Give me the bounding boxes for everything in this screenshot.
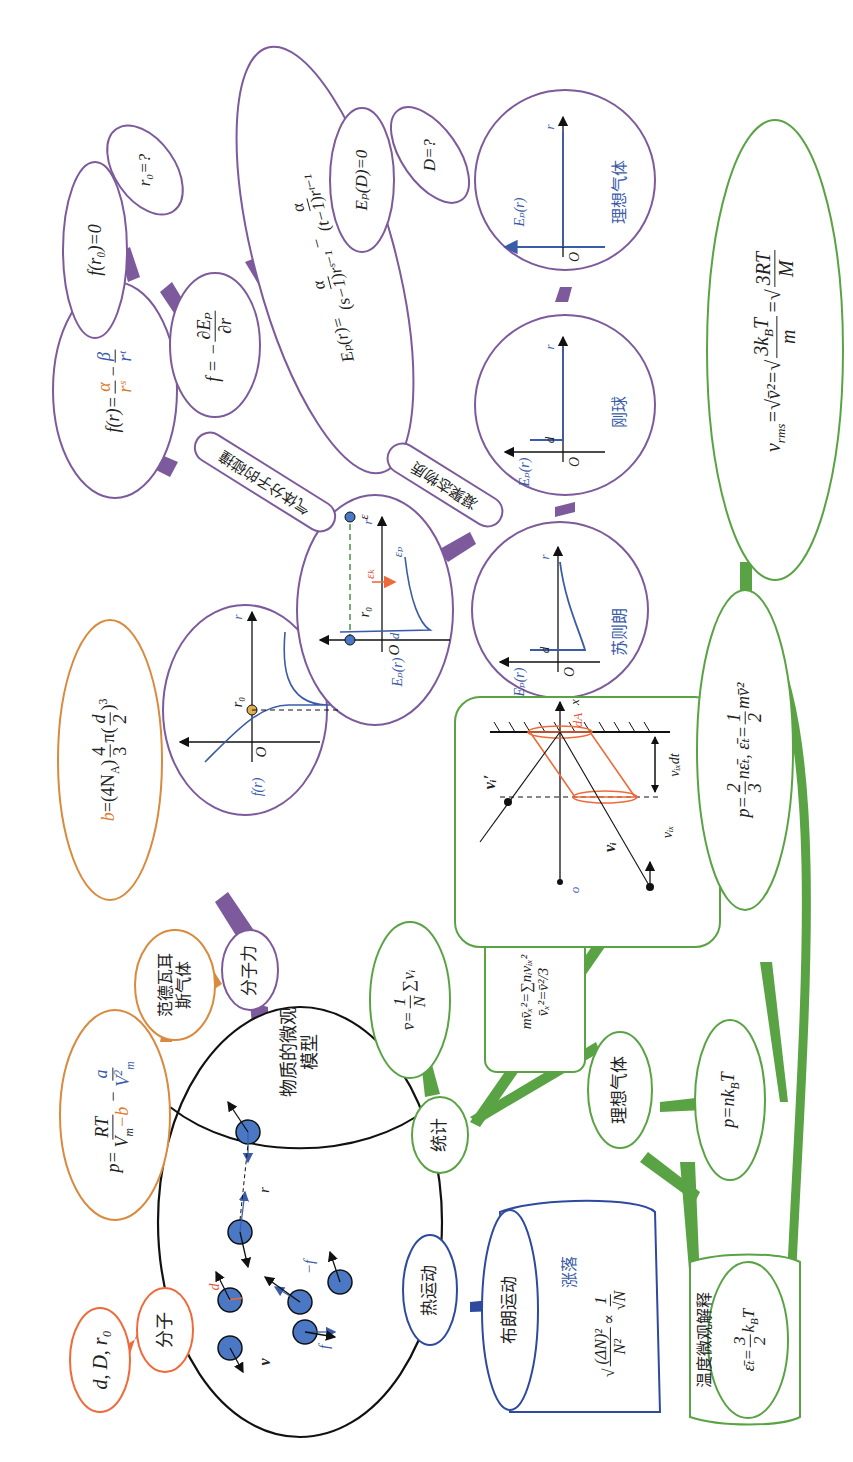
force-zero: f(r₀)=0: [85, 224, 106, 275]
sutherland-origin: O: [562, 667, 578, 677]
force-graph-xlabel: r: [231, 614, 246, 619]
molecule-params-label: d, D, r₀: [89, 1330, 112, 1389]
wall-vi-prime: vᵢ′: [481, 775, 499, 789]
hard-sphere-ylabel: Eₚ(r): [517, 458, 533, 487]
vdw-b-equation: b=(4NA)43π(d2)3: [90, 699, 131, 822]
mind-map-canvas: d, D, r₀ 分子 物质的微观模型 d r v f −f p=RTVm−b−…: [0, 0, 853, 1462]
wall-vi: vᵢ: [601, 842, 619, 852]
molecule-label: 分子: [155, 1312, 176, 1348]
force-formula: f(r)=αrˢ−βrᵗ: [95, 347, 136, 432]
ideal-gas-ylabel: Eₚ(r): [512, 198, 528, 227]
neg-force-label: −f: [301, 1260, 318, 1274]
potential-graph-r0: r₀: [357, 607, 373, 617]
fluctuation-label: 涨落: [561, 1256, 579, 1288]
potential-graph-xlabel: r: [361, 519, 376, 524]
model-sutherland-label: 苏则朗: [611, 608, 629, 656]
sutherland-d: d: [538, 647, 553, 654]
vrms-formula: vrms=√v̄²=√3kBTm=√3RTM: [750, 248, 799, 452]
mean-speed-formula: v̄=1N∑vᵢ: [391, 970, 429, 1031]
ideal-gas-origin: O: [567, 252, 583, 262]
pnkt-formula: p=nkBT: [718, 1072, 742, 1127]
potential-graph-eps: ε: [357, 514, 372, 519]
D-question: D=?: [420, 139, 440, 171]
hard-sphere-origin: O: [567, 457, 583, 467]
potential-graph-origin: O: [386, 645, 403, 656]
wall-vixdt: vᵢₓdt: [667, 753, 683, 776]
temperature-formula: ε̄ₜ=32kBT: [731, 1309, 769, 1372]
wall-vix: vᵢₓ: [660, 826, 676, 838]
mean-square-formula: mv̄ₓ²=∑nᵢvᵢₓ² v̄ₓ²=v̄²/3: [518, 955, 553, 1030]
pressure-formula: p=23nε̄ₜ, ε̄ₜ=12mv̄²: [725, 683, 766, 818]
sutherland-xlabel: r: [538, 554, 553, 559]
hard-sphere-d: d: [543, 437, 558, 444]
diameter-label: d: [207, 1284, 223, 1291]
center-title: 物质的微观模型: [279, 1007, 320, 1097]
molecular-force-label: 分子力: [240, 945, 260, 996]
temperature-title: 温度微观解释: [696, 1292, 714, 1388]
statistics-label: 统计: [430, 1118, 450, 1152]
distance-label: r: [257, 1187, 273, 1192]
thermal-motion-label: 热运动: [420, 1265, 440, 1316]
sutherland-ylabel: Eₚ(r): [512, 668, 528, 697]
force-label: f: [316, 1345, 333, 1349]
vdw-gas-label: 范德瓦耳斯气体: [157, 953, 194, 1017]
hard-sphere-xlabel: r: [543, 344, 558, 349]
model-ideal-gas-label: 理想气体: [611, 160, 629, 224]
wall-o: o: [568, 887, 583, 894]
potential-graph-d: d: [388, 633, 403, 640]
force-graph-r0: r₀: [230, 697, 246, 707]
fluctuation-formula: √(ΔN)²N²∝1√N: [592, 1287, 628, 1378]
potential-D: Eₚ(D)=0: [352, 150, 372, 211]
velocity-label: v: [256, 1358, 274, 1365]
force-derivative: f = −∂Eₚ∂r: [195, 308, 236, 381]
ideal-gas-xlabel: r: [543, 124, 558, 129]
vdw-equation: p=RTVm−b−aV2m: [92, 1057, 137, 1172]
r0-question: r₀=?: [135, 154, 155, 187]
wall-x: x: [568, 699, 583, 705]
potential-graph-ylabel: Eₚ(r): [390, 658, 406, 687]
wall-dA: dA: [571, 713, 586, 727]
ideal-gas-label: 理想气体: [610, 1056, 630, 1124]
potential-graph-epsk: εₖ: [363, 569, 378, 579]
force-graph-ylabel: f(r): [250, 778, 266, 797]
force-graph-origin: O: [253, 747, 270, 758]
potential-graph-epsp: εₚ: [391, 547, 406, 557]
model-hard-sphere-label: 刚球: [611, 396, 629, 428]
brownian-label: 布朗运动: [500, 1276, 520, 1344]
